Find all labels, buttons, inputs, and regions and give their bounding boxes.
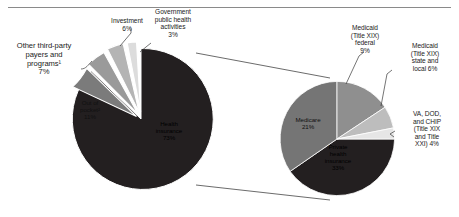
label-medicaid-federal: Medicaid (Title XIX) federal 9% [337,24,393,54]
right-pie [280,81,394,195]
label-medicare: Medicare 21% [285,116,331,130]
label-va-dod-chip: VA, DOD, and CHIP (Title XIX and Title X… [399,110,455,148]
label-out-of-pocket: Out of pocket² 11% [68,99,112,120]
label-health-insurance: Health insurance 73% [147,120,191,141]
label-private-health-insurance: Private health insurance 33% [315,143,361,171]
label-other-third-party-payers: Other third-party payers and programs¹ 7… [4,42,84,77]
pie-chart-figure: Other third-party payers and programs¹ 7… [0,0,459,217]
label-medicaid-state-local: Medicaid (Title XIX) state and local 6% [396,42,454,72]
label-government-public-health: Government public health activities 3% [140,8,206,38]
